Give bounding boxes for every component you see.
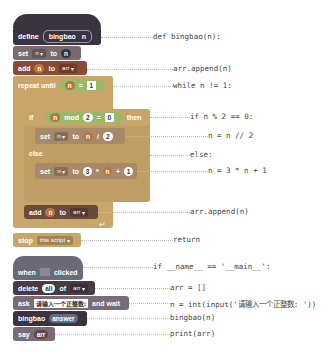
call-bingbao-block[interactable]: bingbao answer	[13, 311, 87, 326]
set-n-half-block[interactable]: set n to n / 2	[35, 128, 125, 144]
connector-line	[129, 303, 170, 304]
to-keyword: to	[50, 50, 57, 57]
divide-op: /	[97, 133, 99, 140]
equals-condition[interactable]: n = 1	[60, 80, 105, 91]
define-param: n	[82, 33, 86, 40]
to-keyword: to	[59, 209, 66, 216]
divisor-input[interactable]: 2	[83, 113, 93, 122]
stop-block[interactable]: stop this script	[13, 233, 81, 247]
code-return: return	[173, 235, 200, 244]
else-label-row: else	[24, 148, 150, 158]
code-if: if n % 2 == 0:	[190, 112, 253, 121]
connector-line	[55, 334, 170, 335]
then-keyword: then	[127, 114, 142, 121]
item-reporter[interactable]: n	[45, 208, 55, 217]
clicked-keyword: clicked	[54, 269, 78, 276]
n-reporter: n	[83, 132, 93, 141]
to-keyword: to	[72, 133, 79, 140]
else-keyword: else	[29, 150, 43, 157]
set-keyword: set	[40, 168, 50, 175]
value-input[interactable]: 1	[87, 81, 96, 90]
connector-line	[113, 86, 173, 87]
answer-reporter[interactable]: answer	[49, 314, 77, 323]
connector-line	[150, 155, 190, 156]
say-block[interactable]: say arr	[13, 327, 55, 341]
param-reporter[interactable]: n	[61, 49, 71, 58]
addend-input[interactable]: 1	[124, 167, 133, 176]
to-keyword: to	[72, 168, 79, 175]
define-name: bingbao	[49, 33, 76, 40]
set-keyword: set	[40, 133, 50, 140]
add-to-list-block-2[interactable]: add n to arr	[24, 205, 98, 219]
if-header: if n mod 2 = 0 then	[24, 109, 150, 126]
mod-condition[interactable]: n mod 2 = 0	[45, 112, 122, 123]
of-keyword: of	[59, 285, 66, 292]
set-n-triple-block[interactable]: set n to 3 * n + 1	[35, 163, 137, 179]
stop-option-dropdown[interactable]: this script	[37, 236, 73, 245]
define-keyword: define	[18, 33, 39, 40]
connector-line	[81, 240, 173, 241]
when-keyword: when	[18, 269, 36, 276]
list-dropdown[interactable]: arr	[59, 64, 77, 73]
ask-block[interactable]: ask 请输入一个正整数: and wait	[13, 296, 129, 310]
code-append-1: arr.append(n)	[173, 64, 232, 73]
add-to-list-block[interactable]: add n to arr	[13, 61, 87, 75]
var-dropdown[interactable]: n	[54, 167, 68, 176]
var-dropdown[interactable]: n	[32, 49, 46, 58]
say-keyword: say	[18, 331, 30, 338]
divisor-input[interactable]: 2	[103, 132, 113, 141]
to-keyword: to	[48, 65, 55, 72]
ask-keyword: ask	[18, 300, 30, 307]
when-flag-clicked-block[interactable]: when clicked	[13, 264, 83, 280]
define-block[interactable]: define bingbao n	[13, 27, 101, 45]
code-triple: n = 3 * n + 1	[208, 166, 267, 175]
multiplier-input[interactable]: 3	[83, 167, 92, 176]
connector-line	[150, 117, 190, 118]
repeat-header: repeat until n = 1	[13, 76, 113, 94]
add-keyword: add	[29, 209, 41, 216]
plus-op: +	[116, 168, 120, 175]
and-wait-keyword: and wait	[92, 300, 120, 307]
item-reporter[interactable]: n	[34, 64, 44, 73]
define-hat-cap	[13, 14, 101, 28]
equals-op: =	[79, 82, 83, 89]
prompt-input[interactable]: 请输入一个正整数:	[34, 299, 88, 308]
list-dropdown[interactable]: arr	[70, 208, 88, 217]
n-reporter: n	[103, 167, 112, 176]
delete-list-block[interactable]: delete all of arr	[13, 281, 95, 295]
set-keyword: set	[18, 50, 28, 57]
list-dropdown[interactable]: arr	[70, 284, 88, 293]
define-signature: bingbao n	[43, 30, 93, 43]
code-input: n = int(input('请输入一个正整数: '))	[170, 298, 316, 309]
value-input[interactable]: 0	[105, 113, 114, 122]
loop-arrow-icon: ↵	[99, 220, 106, 229]
delete-keyword: delete	[18, 285, 38, 292]
connector-line	[137, 171, 208, 172]
if-keyword: if	[29, 114, 33, 121]
code-call: bingbao(n)	[170, 313, 215, 322]
code-half: n = n // 2	[208, 131, 253, 140]
connector-line	[101, 37, 153, 38]
connector-line	[87, 318, 170, 319]
arr-reporter[interactable]: arr	[34, 330, 49, 339]
connector-line	[87, 69, 173, 70]
var-dropdown[interactable]: n	[54, 132, 68, 141]
code-main: if __name__ == '__main__':	[153, 262, 270, 271]
code-else: else:	[190, 150, 213, 159]
set-n-block[interactable]: set n to n	[13, 46, 81, 60]
connector-line	[95, 288, 170, 289]
n-reporter: n	[65, 81, 75, 90]
multiply-op: *	[96, 168, 99, 175]
repeat-keyword: repeat until	[18, 82, 56, 89]
code-def: def bingbao(n):	[153, 32, 221, 41]
procedure-name: bingbao	[18, 315, 45, 322]
code-append-2: arr.append(n)	[190, 207, 249, 216]
n-reporter: n	[50, 113, 60, 122]
code-arr: arr = []	[170, 283, 206, 292]
equals-op: =	[97, 114, 101, 121]
delete-option-dropdown[interactable]: all	[42, 284, 55, 293]
connector-line	[83, 267, 153, 268]
connector-line	[98, 212, 190, 213]
code-while: while n != 1:	[173, 81, 232, 90]
mod-op: mod	[64, 114, 79, 121]
